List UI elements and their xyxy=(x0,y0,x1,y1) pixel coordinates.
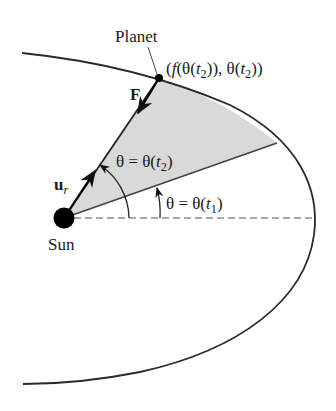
planet-leader-line xyxy=(148,47,157,74)
angle-arc-t1 xyxy=(157,188,160,218)
theta1-prefix: θ = θ( xyxy=(166,194,206,213)
coord-mid: (θ( xyxy=(176,59,195,78)
theta1-suffix: ) xyxy=(217,194,223,213)
ur-sub: r xyxy=(63,183,68,197)
force-label: F xyxy=(130,86,140,103)
theta2-prefix: θ = θ( xyxy=(116,152,156,171)
planet-dot xyxy=(155,74,163,82)
theta2-suffix: ) xyxy=(167,152,173,171)
coord-close1: )), θ( xyxy=(207,59,241,78)
theta-t1-label: θ = θ(t1) xyxy=(166,195,223,215)
coord-close2: )) xyxy=(251,59,262,78)
planet-label: Planet xyxy=(115,28,158,45)
theta-t2-label: θ = θ(t2) xyxy=(116,153,173,173)
sun-label: Sun xyxy=(48,236,74,253)
planet-coordinates-label: (f(θ(t2)), θ(t2)) xyxy=(166,60,263,80)
sun-circle xyxy=(54,208,75,229)
unit-radial-label: ur xyxy=(54,176,68,196)
